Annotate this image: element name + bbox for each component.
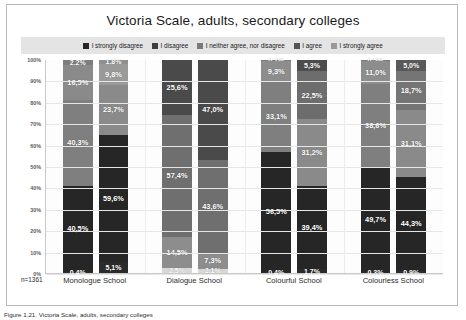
x-tick-label-1: Dialogue School — [145, 276, 245, 285]
x-tick-label-2: Colourful School — [244, 276, 344, 285]
bar-segment[interactable]: 0,4% — [63, 272, 93, 273]
legend-label: I agree — [302, 42, 322, 49]
bar-segment[interactable]: 57,4% — [162, 115, 192, 237]
chart-title: Victoria Scale, adults, secondary colleg… — [7, 13, 459, 28]
segment-value-label: 22,5% — [301, 92, 322, 99]
segment-value-label: 18,7% — [401, 87, 422, 94]
legend-swatch-icon — [152, 43, 158, 49]
y-tick-label: 60% — [30, 143, 41, 149]
segment-value-label: 25,6% — [167, 84, 188, 91]
bar-segment[interactable]: 22,5% — [297, 71, 327, 119]
bar-segment[interactable]: 0,3% — [361, 272, 391, 273]
y-tick-label: 20% — [30, 228, 41, 234]
bar-segment[interactable]: 40,3% — [63, 100, 93, 186]
legend-label: I neither agree, nor disagree — [206, 42, 285, 49]
figure-caption: Figure 1.21. Victoria Scale, adults, sec… — [4, 310, 462, 319]
bar-segment[interactable]: 9,3% — [261, 61, 291, 81]
y-tick-label: 90% — [30, 78, 41, 84]
legend-label: I strongly agree — [339, 42, 382, 49]
y-axis-labels: 100%90%80%70%60%50%40%30%20%10%0% — [21, 60, 43, 274]
legend-item-1[interactable]: I disagree — [152, 42, 188, 49]
bar-segment[interactable]: 18,7% — [396, 71, 426, 111]
segment-value-label: 31,2% — [301, 149, 322, 156]
bar-segment[interactable]: 23,7% — [99, 85, 129, 135]
bar-segment[interactable]: 39,4% — [297, 186, 327, 270]
gridline — [46, 274, 443, 275]
y-tick-label: 10% — [30, 250, 41, 256]
legend-swatch-icon — [294, 43, 300, 49]
bar-segment[interactable]: 43,6% — [198, 160, 228, 253]
group-separator — [145, 60, 146, 273]
y-tick-label: 40% — [30, 185, 41, 191]
legend-item-4[interactable]: I strongly agree — [331, 42, 383, 49]
bar-segment[interactable]: 1,7% — [297, 269, 327, 273]
y-tick-label: 100% — [27, 57, 41, 63]
segment-value-label: 23,7% — [103, 106, 124, 113]
legend-item-3[interactable]: I agree — [294, 42, 322, 49]
segment-value-label: 39,4% — [301, 224, 322, 231]
legend-item-0[interactable]: I strongly disagree — [83, 42, 143, 49]
segment-value-label: 38,6% — [365, 122, 386, 129]
bar-segment[interactable]: 33,1% — [261, 81, 291, 152]
legend-swatch-icon — [331, 43, 337, 49]
plot-wrapper: 100%90%80%70%60%50%40%30%20%10%0% 2,2%16… — [21, 60, 445, 288]
chart-legend: I strongly disagreeI disagreeI neither a… — [21, 37, 445, 54]
bar-segment[interactable]: 40,5% — [63, 186, 93, 272]
legend-label: I disagree — [161, 42, 189, 49]
legend-label: I strongly disagree — [92, 42, 143, 49]
segment-value-label: 49,7% — [365, 216, 386, 223]
bar-segment[interactable]: 5,3% — [297, 60, 327, 71]
bar-segment[interactable]: 49,7% — [361, 167, 391, 273]
segment-value-label: 9,3% — [268, 68, 285, 75]
figure-frame: Victoria Scale, adults, secondary colleg… — [6, 4, 458, 306]
bar-segment[interactable]: 56,5% — [261, 152, 291, 272]
bar-segment[interactable]: 25,6% — [162, 60, 192, 115]
segment-value-label: 33,1% — [266, 113, 287, 120]
x-tick-label-3: Colourless School — [344, 276, 444, 285]
bar-segment[interactable]: 5,0% — [396, 60, 426, 71]
bar-segment[interactable]: 0,9% — [396, 271, 426, 273]
bar-segment[interactable]: 5,1% — [99, 262, 129, 273]
bar-segment[interactable]: 31,2% — [297, 119, 327, 185]
segment-value-label: 44,3% — [401, 220, 422, 227]
y-tick-label: 70% — [30, 121, 41, 127]
bar-segment[interactable]: 59,6% — [99, 135, 129, 262]
segment-value-label: 59,6% — [103, 195, 124, 202]
legend-swatch-icon — [83, 43, 89, 49]
bar-segment[interactable]: 38,6% — [361, 84, 391, 166]
bar-segment[interactable]: 0,4% — [261, 272, 291, 273]
legend-item-2[interactable]: I neither agree, nor disagree — [197, 42, 285, 49]
y-tick-label: 30% — [30, 207, 41, 213]
segment-value-label: 9,8% — [105, 71, 122, 78]
segment-value-label: 2,5% — [169, 267, 185, 274]
y-tick-label: 50% — [30, 164, 41, 170]
plot-area: 2,2%16,5%40,3%40,5%0,4%1,8%9,8%23,7%59,6… — [45, 60, 443, 274]
group-separator — [344, 60, 345, 273]
legend-swatch-icon — [197, 43, 203, 49]
segment-value-label: 57,4% — [167, 172, 188, 179]
y-tick-label: 80% — [30, 100, 41, 106]
group-separator — [245, 60, 246, 273]
segment-value-label: 5,1% — [105, 264, 121, 271]
segment-value-label: 47,0% — [202, 106, 223, 113]
segment-value-label: 11,0% — [365, 69, 386, 76]
segment-value-label: 5,3% — [304, 62, 320, 69]
x-axis-labels: Monologue SchoolDialogue SchoolColourful… — [45, 276, 443, 285]
bar-segment[interactable]: 44,3% — [396, 177, 426, 271]
bar-segment[interactable]: 2,1% — [198, 269, 228, 273]
bar-segment[interactable]: 2,5% — [162, 268, 192, 273]
sample-size-label: n=1361 — [21, 276, 67, 283]
segment-value-label: 5,0% — [403, 62, 419, 69]
segment-value-label: 7,3% — [204, 257, 221, 264]
